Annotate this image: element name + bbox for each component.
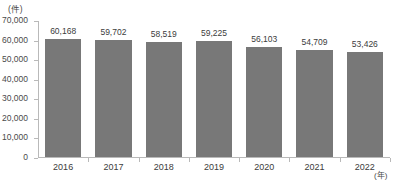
- x-axis-tick: [189, 158, 190, 162]
- x-axis-category-label: 2018: [154, 162, 174, 173]
- y-axis-tick-label: 10,000: [2, 132, 28, 143]
- y-axis-tick: 20,000: [34, 119, 38, 120]
- x-axis-category-label: 2016: [53, 162, 73, 173]
- y-axis-tick: 60,000: [34, 41, 38, 42]
- y-axis-line: [38, 21, 39, 158]
- plot-area: 70,00060,00050,00040,00030,00020,00010,0…: [38, 21, 390, 158]
- y-axis-tick-label: 0: [23, 152, 28, 163]
- y-axis-tick: 0: [34, 158, 38, 159]
- bar-group: 54,7092021: [296, 50, 332, 157]
- y-axis-tick: 70,000: [34, 21, 38, 22]
- bar-group: 59,2252019: [196, 41, 232, 157]
- y-axis-tick: 10,000: [34, 138, 38, 139]
- bar: [347, 52, 383, 157]
- x-axis-category-label: 2022: [355, 162, 375, 173]
- bar: [246, 47, 282, 157]
- y-axis-tick: 50,000: [34, 60, 38, 61]
- bar: [146, 42, 182, 157]
- bar: [95, 40, 131, 157]
- x-axis-category-label: 2021: [305, 162, 325, 173]
- x-axis-tick: [340, 158, 341, 162]
- bar-value-label: 56,103: [251, 34, 277, 45]
- x-axis-line: [38, 157, 390, 158]
- x-axis-tick: [239, 158, 240, 162]
- bar: [45, 39, 81, 157]
- y-axis-tick-label: 20,000: [2, 113, 28, 124]
- x-axis-unit-label: (年): [374, 171, 387, 181]
- x-axis-tick: [139, 158, 140, 162]
- bar-value-label: 59,225: [201, 28, 227, 39]
- bar-value-label: 59,702: [100, 27, 126, 38]
- x-axis-tick: [289, 158, 290, 162]
- bar-group: 60,1682016: [45, 39, 81, 157]
- bar-value-label: 53,426: [352, 39, 378, 50]
- x-axis-tick: [390, 158, 391, 162]
- x-axis-category-label: 2017: [103, 162, 123, 173]
- bar-group: 58,5192018: [146, 42, 182, 157]
- y-axis-unit-label: (件): [8, 4, 23, 15]
- bar-chart-figure: (件) 70,00060,00050,00040,00030,00020,000…: [0, 0, 400, 188]
- bar-group: 59,7022017: [95, 40, 131, 157]
- y-axis-tick-label: 70,000: [2, 15, 28, 26]
- y-axis-tick-label: 50,000: [2, 54, 28, 65]
- y-axis-tick: 40,000: [34, 80, 38, 81]
- bar-group: 53,4262022: [347, 52, 383, 157]
- x-axis-category-label: 2019: [204, 162, 224, 173]
- bar-value-label: 58,519: [151, 29, 177, 40]
- y-axis-tick: 30,000: [34, 99, 38, 100]
- bar-value-label: 60,168: [50, 26, 76, 37]
- x-axis-category-label: 2020: [254, 162, 274, 173]
- y-axis-tick-label: 60,000: [2, 35, 28, 46]
- x-axis-tick: [88, 158, 89, 162]
- bar-value-label: 54,709: [302, 37, 328, 48]
- bar-group: 56,1032020: [246, 47, 282, 157]
- y-axis-tick-label: 40,000: [2, 74, 28, 85]
- bar: [196, 41, 232, 157]
- y-axis-tick-label: 30,000: [2, 93, 28, 104]
- bar: [296, 50, 332, 157]
